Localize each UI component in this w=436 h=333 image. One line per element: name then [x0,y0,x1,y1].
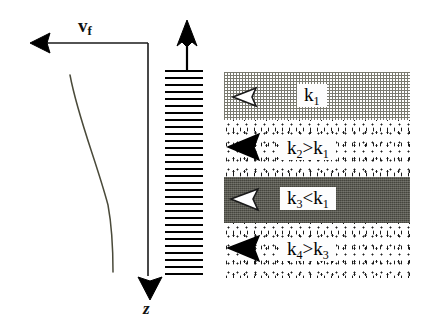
diagram-canvas: k1 k2>k1 k3<k1 k4>k3 [0,0,436,333]
hatched-wall-zone [165,70,203,278]
coarse-grain-band-zone [203,70,224,278]
surface-flux-arrow [177,20,197,71]
depth-axis-label: z [143,300,150,317]
velocity-arrow-head [30,33,50,53]
depth-axis-arrow-head [138,277,162,300]
layer-label-k4: k4>k3 [280,238,336,261]
depth-axis-arrow [138,277,162,300]
velocity-label: vf [78,16,92,35]
layer-label-k2: k2>k1 [280,137,336,160]
surface-arrow-head [177,20,197,47]
layer-label-k3: k3<k1 [280,187,336,210]
velocity-profile-curve [70,75,113,272]
layer-label-k1: k1 [297,84,327,107]
